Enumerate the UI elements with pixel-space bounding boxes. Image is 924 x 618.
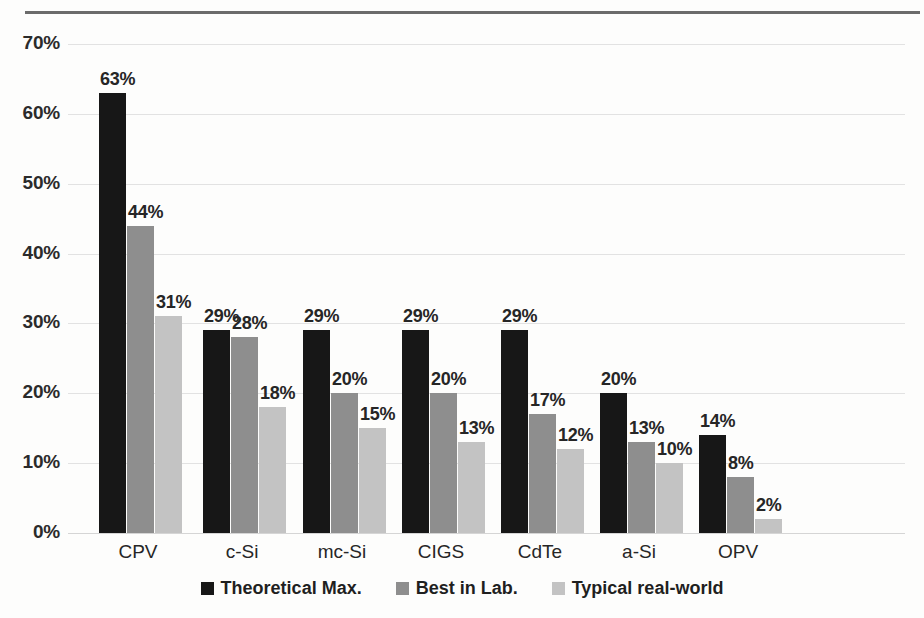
bar-value-label: 63% (100, 69, 135, 90)
bar (557, 449, 584, 533)
top-divider-rule (25, 11, 920, 14)
bar (656, 463, 683, 533)
bar (501, 330, 528, 533)
bar (359, 428, 386, 533)
bar (628, 442, 655, 533)
bar-value-label: 15% (360, 404, 395, 425)
bar-value-label: 13% (629, 418, 664, 439)
bar (402, 330, 429, 533)
bar-value-label: 13% (459, 418, 494, 439)
y-axis-tick-label: 20% (4, 381, 60, 403)
bar (727, 477, 754, 533)
bar-value-label: 20% (431, 369, 466, 390)
bar-value-label: 31% (156, 292, 191, 313)
bar-value-label: 8% (728, 453, 753, 474)
bar-group-cdte: 29%17%12% (501, 44, 584, 533)
y-axis-tick-label: 60% (4, 102, 60, 124)
bar (430, 393, 457, 533)
y-axis-tick-label: 0% (4, 521, 60, 543)
bar-value-label: 29% (304, 306, 339, 327)
y-axis-tick-label: 40% (4, 242, 60, 264)
bar (155, 316, 182, 533)
bar-value-label: 10% (657, 439, 692, 460)
bar (303, 330, 330, 533)
bar (529, 414, 556, 533)
bar (458, 442, 485, 533)
bar-group-a-si: 20%13%10% (600, 44, 683, 533)
bar-group-c-si: 29%28%18% (203, 44, 286, 533)
x-axis-label-cpv: CPV (78, 541, 198, 563)
bar-value-label: 17% (530, 390, 565, 411)
bar-group-mc-si: 29%20%15% (303, 44, 386, 533)
y-axis-tick-label: 10% (4, 451, 60, 473)
bar-value-label: 28% (232, 313, 267, 334)
legend-item[interactable]: Best in Lab. (396, 578, 518, 599)
bar (331, 393, 358, 533)
y-axis-tick-label: 30% (4, 311, 60, 333)
gridline-0% (68, 533, 905, 534)
bar (755, 519, 782, 533)
x-axis-label-opv: OPV (678, 541, 798, 563)
legend-swatch-icon (201, 582, 214, 595)
bar (699, 435, 726, 533)
bar-value-label: 44% (128, 202, 163, 223)
y-axis-tick-label: 50% (4, 172, 60, 194)
bar (231, 337, 258, 533)
bar-value-label: 29% (502, 306, 537, 327)
legend-label: Theoretical Max. (221, 578, 362, 599)
bar-value-label: 20% (601, 369, 636, 390)
legend-item[interactable]: Typical real-world (552, 578, 724, 599)
bar-value-label: 18% (260, 383, 295, 404)
bar (127, 226, 154, 533)
bar (99, 93, 126, 533)
bar-value-label: 2% (756, 495, 781, 516)
bar-group-cigs: 29%20%13% (402, 44, 485, 533)
legend-swatch-icon (552, 582, 565, 595)
legend-label: Typical real-world (572, 578, 724, 599)
legend-label: Best in Lab. (416, 578, 518, 599)
bar-group-opv: 14%8%2% (699, 44, 782, 533)
bar (203, 330, 230, 533)
bar-value-label: 12% (558, 425, 593, 446)
plot-area: 0%10%20%30%40%50%60%70%63%44%31%29%28%18… (68, 44, 905, 533)
bar (600, 393, 627, 533)
bar-value-label: 20% (332, 369, 367, 390)
bar (259, 407, 286, 533)
bar-value-label: 29% (403, 306, 438, 327)
chart-legend: Theoretical Max.Best in Lab.Typical real… (0, 578, 924, 599)
legend-item[interactable]: Theoretical Max. (201, 578, 362, 599)
legend-swatch-icon (396, 582, 409, 595)
y-axis-tick-label: 70% (4, 32, 60, 54)
bar-chart: 0%10%20%30%40%50%60%70%63%44%31%29%28%18… (0, 0, 924, 618)
bar-group-cpv: 63%44%31% (99, 44, 182, 533)
bar-value-label: 14% (700, 411, 735, 432)
